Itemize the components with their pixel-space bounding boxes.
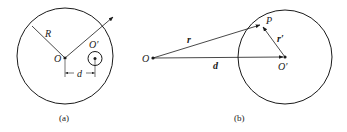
label-r-prime-vector: r′ [277, 33, 284, 44]
vector-r [153, 25, 260, 58]
large-sphere-outline [17, 8, 113, 104]
label-o-center: O [54, 53, 61, 64]
label-d-vector: d [213, 60, 219, 71]
outward-arrow [65, 17, 113, 58]
label-d-distance: d [77, 68, 83, 79]
label-r-radius: R [44, 28, 51, 39]
center-dot-o-prime [94, 57, 97, 60]
vector-d [153, 57, 283, 58]
label-r-vector: r [187, 34, 191, 45]
caption-a: (a) [59, 113, 69, 123]
caption-b: (b) [234, 113, 245, 123]
center-dot-o-prime-b [283, 55, 286, 58]
label-o-prime: O′ [89, 39, 99, 50]
label-o-origin: O [142, 53, 149, 64]
figure-a: R O O′ d (a) [17, 8, 113, 123]
figure-b: O P r r′ d O′ (b) [142, 10, 332, 123]
label-p-point: P [265, 15, 272, 26]
diagram-canvas: R O O′ d (a) O P r r′ d O′ (b) [0, 0, 347, 132]
label-o-prime-b: O′ [278, 61, 288, 72]
center-dot-o [63, 56, 66, 59]
